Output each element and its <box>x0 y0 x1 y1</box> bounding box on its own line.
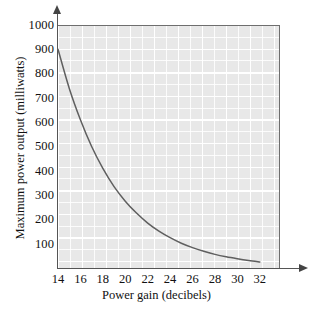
chart-figure: 1002003004005006007008009001000 14161820… <box>0 0 313 315</box>
y-axis-arrow-icon <box>53 5 61 14</box>
y-axis-title-wrapper: Maximum power output (milliwatts) <box>0 140 148 156</box>
panel-top-border <box>58 25 280 26</box>
panel-right-border <box>279 25 280 269</box>
x-axis-arrow-icon <box>299 264 308 272</box>
y-axis-title: Maximum power output (milliwatts) <box>12 20 28 276</box>
x-axis-title: Power gain (decibels) <box>0 288 313 302</box>
x-tick-label: 32 <box>245 272 275 286</box>
x-axis-line <box>57 268 300 269</box>
